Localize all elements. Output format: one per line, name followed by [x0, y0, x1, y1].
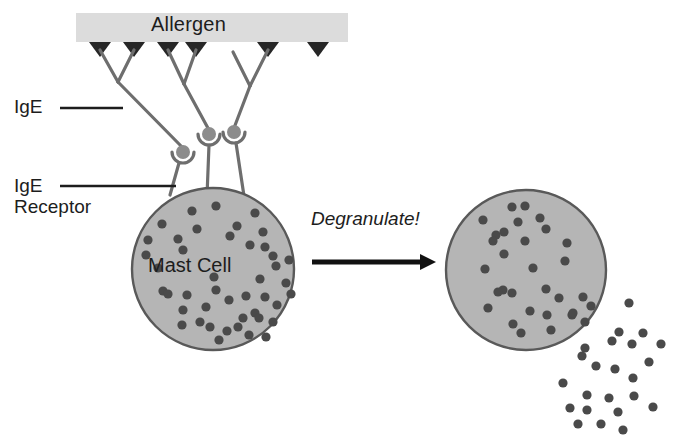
mast-cell-degranulating: [446, 190, 606, 350]
ige-arm-left: [168, 50, 184, 84]
ige-receptor-label: IgE Receptor: [14, 175, 91, 218]
ige-receptor: [198, 127, 220, 196]
ige-receptor: [223, 125, 245, 196]
allergen-triangle-group: [89, 42, 329, 57]
ige-receptor-group: [170, 125, 245, 196]
ige-antibody-1: [100, 50, 183, 148]
ige-antibody-3: [233, 50, 268, 128]
ige-receptor: [170, 145, 194, 195]
allergy-mast-cell-degranulation-diagram: Allergen IgE IgE Receptor Degranulate! M…: [0, 0, 693, 441]
mast-cell-label: Mast Cell: [148, 254, 231, 276]
allergen-label: Allergen: [151, 13, 226, 35]
ige-label: IgE: [14, 96, 43, 117]
ige-arm-left: [233, 52, 250, 86]
degranulate-label: Degranulate!: [311, 208, 420, 229]
ige-stem: [184, 84, 209, 130]
ige-antibody-2: [168, 50, 209, 130]
degranulate-arrow: [312, 254, 436, 270]
ige-stem: [118, 82, 183, 148]
mast-cell-membrane: [446, 190, 606, 350]
ige-arm-right: [250, 50, 268, 86]
ige-arm-left: [100, 50, 118, 82]
ige-arm-right: [118, 50, 134, 82]
ige-antibody-group: [100, 50, 268, 148]
ige-stem: [234, 86, 250, 128]
allergen-triangle-unbound: [307, 42, 329, 57]
ige-arm-right: [184, 50, 196, 84]
